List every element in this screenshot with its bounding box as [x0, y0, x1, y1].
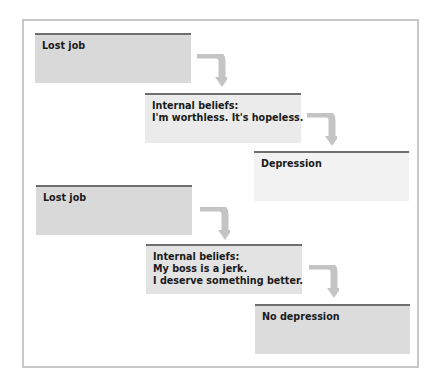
arrow-down-right-icon: [309, 265, 339, 299]
box-text: No depression: [262, 311, 403, 323]
box-b-outcome: No depression: [255, 304, 410, 354]
box-b-event: Lost job: [36, 185, 192, 235]
box-a-beliefs: Internal beliefs: I'm worthless. It's ho…: [145, 93, 301, 143]
arrow-down-right-icon: [197, 54, 227, 88]
box-text: Internal beliefs:: [153, 251, 295, 263]
box-text: Internal beliefs:: [152, 100, 294, 112]
box-a-outcome: Depression: [254, 151, 409, 201]
box-b-beliefs: Internal beliefs: My boss is a jerk. I d…: [146, 244, 302, 294]
box-text: Lost job: [42, 40, 184, 52]
box-a-event: Lost job: [35, 33, 191, 83]
box-text: My boss is a jerk.: [153, 263, 295, 275]
box-text: I deserve something better.: [153, 275, 295, 287]
arrow-down-right-icon: [307, 113, 337, 147]
arrow-down-right-icon: [200, 207, 230, 241]
box-text: I'm worthless. It's hopeless.: [152, 112, 294, 124]
box-text: Depression: [261, 158, 402, 170]
box-text: Lost job: [43, 192, 185, 204]
